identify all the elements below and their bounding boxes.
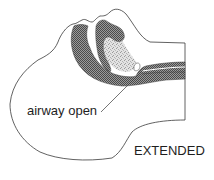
extended-position-label: EXTENDED: [134, 144, 205, 157]
airway-open-label: airway open: [27, 104, 97, 117]
